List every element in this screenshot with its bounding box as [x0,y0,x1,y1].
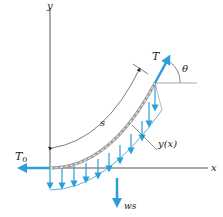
tension-label: T [152,50,161,63]
angle-arc [170,62,180,83]
angle-label: θ [182,63,188,74]
curve-leader [132,125,157,150]
horizontal-tension-label: T0 [15,150,27,164]
arc-length-label: s [100,117,105,128]
x-axis-label: x [211,162,217,173]
load-envelope-end [155,83,162,110]
load-envelope [50,110,162,190]
arc-length-indicator [52,68,140,148]
cable-diagram: y x s y(x) θ T T0 ws [0,0,223,217]
distributed-load-arrows [50,85,155,186]
curve-label: y(x) [157,138,177,149]
weight-label: ws [124,201,137,211]
y-axis-label: y [46,0,53,11]
arc-length-tick [133,64,148,74]
